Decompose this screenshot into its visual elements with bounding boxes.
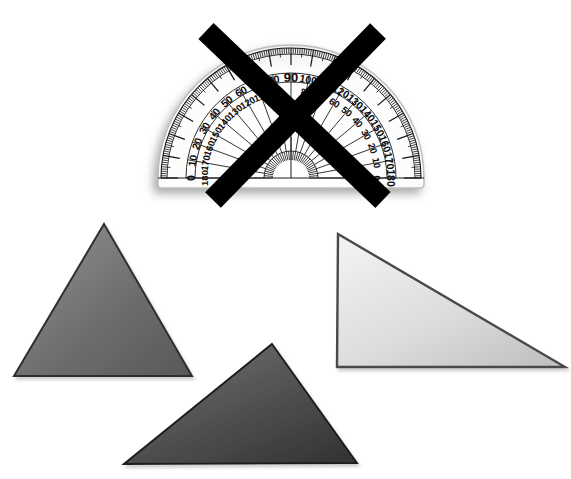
protractor-outer-label: 10 — [185, 154, 199, 168]
protractor-outer-label: 90 — [284, 70, 298, 85]
triangle-right — [337, 234, 565, 367]
triangle-upper-left — [14, 224, 192, 376]
protractor-inner-label: 180 — [199, 170, 210, 186]
shape-group — [14, 224, 565, 464]
image-canvas: 0102030405060708090100110120130140150160… — [0, 0, 571, 479]
protractor-inner-label: 10 — [370, 157, 383, 169]
scene-svg: 0102030405060708090100110120130140150160… — [0, 0, 571, 479]
protractor-outer-label: 0 — [185, 175, 197, 181]
protractor-outer-label: 180 — [385, 169, 397, 187]
